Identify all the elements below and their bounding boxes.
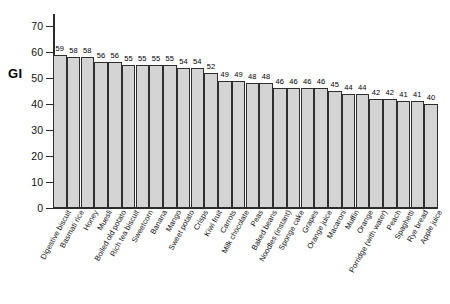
bar[interactable] [204,73,218,208]
bar[interactable] [342,94,356,208]
bar[interactable] [328,91,342,208]
bar[interactable] [136,65,150,208]
bar[interactable] [177,68,191,208]
bar[interactable] [232,81,246,208]
bar[interactable] [67,57,81,208]
y-axis-tick-label: 20 [31,151,43,162]
bar[interactable] [246,83,260,208]
y-axis-tick-label: 30 [31,125,43,136]
y-axis-tick [46,208,54,209]
bar[interactable] [301,88,315,208]
bar[interactable] [424,104,438,208]
bar[interactable] [122,65,136,208]
bar[interactable] [81,57,95,208]
bar[interactable] [163,65,177,208]
bar[interactable] [369,99,383,208]
bar[interactable] [314,88,328,208]
bar-value-label: 52 [203,63,220,71]
bar[interactable] [191,68,205,208]
bar[interactable] [259,83,273,208]
bar[interactable] [287,88,301,208]
y-axis-tick [46,182,54,183]
bar[interactable] [356,94,370,208]
y-axis-tick-label: 40 [31,99,43,110]
bar[interactable] [108,62,122,208]
bar[interactable] [218,81,232,208]
bar[interactable] [53,55,67,208]
y-axis-tick-label: 70 [31,21,43,32]
y-axis-tick-label: 10 [31,177,43,188]
y-axis-tick [46,130,54,131]
x-axis-category-labels: Digestive biscuitBasmati riceHoneyMuesli… [53,209,450,304]
y-axis-tick [46,156,54,157]
y-axis-tick-labels: 010203040506070 [0,0,45,304]
bar-value-label: 40 [423,94,440,102]
plot-area [53,12,438,208]
glycaemic-index-bar-chart: GI 010203040506070 Digestive biscuitBasm… [0,0,450,304]
y-axis-tick [46,104,54,105]
bar[interactable] [397,101,411,208]
bar[interactable] [411,101,425,208]
y-axis-tick-label: 0 [37,203,43,214]
bar[interactable] [383,99,397,208]
bar[interactable] [149,65,163,208]
bar[interactable] [273,88,287,208]
y-axis-tick [46,78,54,79]
y-axis-tick-label: 50 [31,73,43,84]
bar[interactable] [94,62,108,208]
y-axis-tick-label: 60 [31,47,43,58]
y-axis-tick [46,26,54,27]
